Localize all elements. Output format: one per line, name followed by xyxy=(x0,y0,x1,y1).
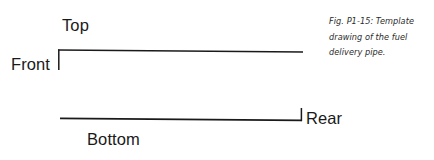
caption-line-3: delivery pipe. xyxy=(329,45,431,61)
top-edge-line xyxy=(58,50,303,52)
label-rear: Rear xyxy=(306,110,342,127)
label-top: Top xyxy=(62,17,89,34)
caption-line-2: drawing of the fuel xyxy=(329,30,431,46)
label-bottom: Bottom xyxy=(87,131,140,148)
caption-line-1: Fig. P1-15: Template xyxy=(329,14,431,30)
figure-caption: Fig. P1-15: Template drawing of the fuel… xyxy=(329,14,431,61)
bottom-edge-line xyxy=(60,118,302,120)
label-front: Front xyxy=(11,56,50,73)
pipe-template-figure: Top Front Bottom Rear Fig. P1-15: Templa… xyxy=(0,0,434,160)
